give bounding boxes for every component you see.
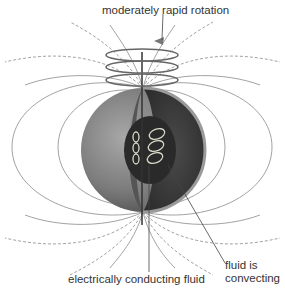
planet	[81, 88, 205, 212]
rotation-arrow-icon	[154, 37, 164, 45]
label-conducting-fluid: electrically conducting fluid	[68, 273, 205, 286]
label-rotation: moderately rapid rotation	[102, 4, 229, 17]
label-fluid-convecting: fluid is convecting	[225, 259, 280, 285]
label-convecting-line1: fluid is	[225, 259, 280, 272]
label-convecting-line2: convecting	[225, 272, 280, 285]
dynamo-diagram	[0, 0, 285, 292]
